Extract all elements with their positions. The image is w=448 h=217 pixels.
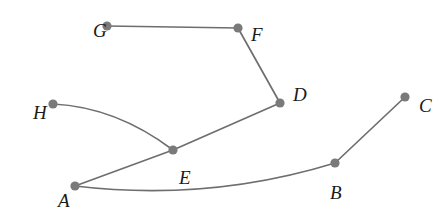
- graph-figure: ABCDEFGH: [0, 0, 448, 217]
- vertex-label-B: B: [330, 183, 342, 202]
- vertex-label-H: H: [33, 103, 47, 122]
- vertex-label-G: G: [93, 21, 107, 40]
- vertex-label-C: C: [419, 96, 432, 115]
- vertex-label-A: A: [58, 191, 70, 210]
- graph-canvas: [0, 0, 448, 217]
- edge-E-A: [75, 150, 173, 186]
- vertex-label-E: E: [179, 168, 191, 187]
- vertex-H[interactable]: [48, 99, 57, 108]
- vertices-group: [48, 21, 409, 190]
- vertex-label-D: D: [293, 85, 307, 104]
- vertex-F[interactable]: [233, 23, 242, 32]
- edge-H-E: [53, 104, 173, 150]
- vertex-B[interactable]: [330, 158, 339, 167]
- edge-D-E: [173, 103, 280, 150]
- edge-B-C: [335, 97, 405, 163]
- edge-A-B: [75, 163, 335, 191]
- edges-group: [53, 26, 405, 191]
- vertex-A[interactable]: [70, 181, 79, 190]
- vertex-label-F: F: [251, 25, 263, 44]
- vertex-C[interactable]: [400, 92, 409, 101]
- edge-G-F: [107, 26, 238, 28]
- vertex-E[interactable]: [168, 145, 177, 154]
- vertex-D[interactable]: [275, 98, 284, 107]
